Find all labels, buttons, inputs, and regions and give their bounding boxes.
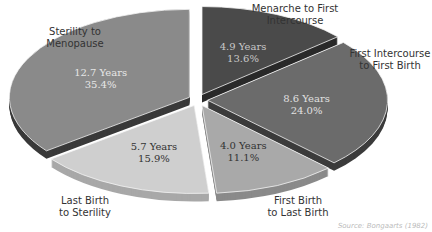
label-menarche: Menarche to First Intercourse <box>246 3 344 27</box>
slice-years-text: 4.0 Years <box>220 140 267 151</box>
slice-percent-text: 11.1% <box>227 152 259 163</box>
source-note: Source: Bongaarts (1982) <box>338 222 428 230</box>
label-first-birth: First Birth to Last Birth <box>263 195 333 219</box>
slice-percent-text: 15.9% <box>138 153 170 164</box>
slice-years-text: 12.7 Years <box>74 67 127 78</box>
label-last-birth: Last Birth to Sterility <box>50 195 120 219</box>
slice-years-text: 8.6 Years <box>283 93 330 104</box>
slice-years-text: 5.7 Years <box>131 141 178 152</box>
slice-percent-text: 13.6% <box>227 53 259 64</box>
label-sterility: Sterility to Menopause <box>40 26 110 50</box>
slice-percent-text: 35.4% <box>85 79 117 90</box>
label-first-intercourse: First Intercourse to First Birth <box>345 48 432 72</box>
slice-percent-text: 24.0% <box>291 105 323 116</box>
slice-years-text: 4.9 Years <box>220 41 267 52</box>
